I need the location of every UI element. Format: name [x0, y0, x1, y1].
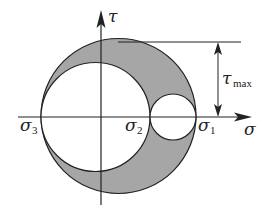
sigma1-label: σ 1 [198, 115, 216, 136]
tau-axis-label: τ [108, 6, 118, 26]
sigma-axis-label: σ [244, 119, 256, 139]
svg-text:2: 2 [137, 124, 143, 136]
svg-text:τ: τ [222, 68, 232, 88]
mohr-circle-diagram: τ σ σ 3 σ 2 σ 1 τ max [0, 0, 273, 214]
svg-text:σ: σ [20, 115, 32, 135]
tau-max-label: τ max [222, 68, 252, 89]
svg-text:max: max [233, 77, 252, 89]
svg-text:σ: σ [198, 115, 210, 135]
svg-text:σ: σ [125, 115, 137, 135]
sigma3-label: σ 3 [20, 115, 38, 136]
svg-text:1: 1 [210, 124, 216, 136]
svg-text:3: 3 [32, 124, 38, 136]
